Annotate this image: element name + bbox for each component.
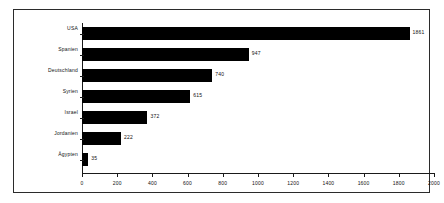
x-axis-tick-label: 1400 xyxy=(322,179,334,187)
x-axis-tick xyxy=(82,173,83,177)
bar[interactable] xyxy=(82,27,410,40)
x-axis-tick-label: 1200 xyxy=(287,179,299,187)
x-axis-tick xyxy=(364,173,365,177)
bar-row: 222 xyxy=(82,129,434,150)
bar[interactable] xyxy=(82,132,121,145)
x-axis-tick xyxy=(223,173,224,177)
category-label: Ägypten xyxy=(18,150,78,158)
x-axis-tick xyxy=(399,173,400,177)
x-axis-tick xyxy=(188,173,189,177)
x-axis-tick-label: 600 xyxy=(183,179,192,187)
bar-value-label: 222 xyxy=(124,133,133,141)
x-axis-tick-label: 0 xyxy=(81,179,84,187)
bar-row: 740 xyxy=(82,66,434,87)
category-label: Israel xyxy=(18,108,78,116)
x-axis-tick-label: 200 xyxy=(113,179,122,187)
chart-frame: 1861USA947Spanien740Deutschland615Syrien… xyxy=(13,9,430,193)
bar-row: 615 xyxy=(82,87,434,108)
bar[interactable] xyxy=(82,90,190,103)
bar-row: 947 xyxy=(82,45,434,66)
bar-row: 35 xyxy=(82,150,434,171)
x-axis-tick-label: 400 xyxy=(148,179,157,187)
x-axis-tick-label: 1800 xyxy=(393,179,405,187)
y-axis-tick xyxy=(80,34,84,35)
bar-value-label: 372 xyxy=(150,112,159,120)
category-label: USA xyxy=(18,24,78,32)
y-axis-tick xyxy=(80,118,84,119)
y-axis-tick xyxy=(80,139,84,140)
x-axis-tick xyxy=(434,173,435,177)
x-axis-tick-label: 1000 xyxy=(252,179,264,187)
bar-row: 372 xyxy=(82,108,434,129)
bar[interactable] xyxy=(82,48,249,61)
y-axis-tick xyxy=(80,160,84,161)
chart-screenshot: 1861USA947Spanien740Deutschland615Syrien… xyxy=(0,0,444,203)
y-axis-tick xyxy=(80,76,84,77)
x-axis-tick xyxy=(328,173,329,177)
x-axis-tick xyxy=(258,173,259,177)
x-axis-tick-label: 800 xyxy=(218,179,227,187)
category-label: Deutschland xyxy=(18,66,78,74)
category-label: Spanien xyxy=(18,45,78,53)
bar-value-label: 1861 xyxy=(413,28,425,36)
x-axis-tick xyxy=(117,173,118,177)
bar-row: 1861 xyxy=(82,24,434,45)
x-axis-tick xyxy=(293,173,294,177)
bar-value-label: 615 xyxy=(193,91,202,99)
bar-value-label: 35 xyxy=(91,154,97,162)
x-axis-tick-label: 1600 xyxy=(358,179,370,187)
x-axis-tick-label: 2000 xyxy=(428,179,440,187)
bar-value-label: 947 xyxy=(252,49,261,57)
category-label: Jordanien xyxy=(18,129,78,137)
bar[interactable] xyxy=(82,69,212,82)
y-axis-tick xyxy=(80,55,84,56)
y-axis-tick xyxy=(80,97,84,98)
bar[interactable] xyxy=(82,111,147,124)
category-label: Syrien xyxy=(18,87,78,95)
x-axis-tick xyxy=(152,173,153,177)
bar-value-label: 740 xyxy=(215,70,224,78)
